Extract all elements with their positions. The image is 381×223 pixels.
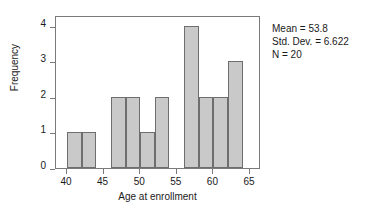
x-tick-mark — [176, 169, 177, 174]
x-tick-mark — [212, 169, 213, 174]
histogram-bar — [82, 132, 97, 168]
plot-frame — [55, 16, 260, 169]
y-tick-label: 4 — [40, 19, 46, 29]
y-tick-label: 2 — [40, 90, 46, 100]
y-tick-label: 0 — [40, 161, 46, 171]
histogram-figure: 01234 Frequency 404550556065 Age at enro… — [0, 0, 381, 223]
histogram-bar — [213, 97, 228, 168]
x-tick-mark — [66, 169, 67, 174]
histogram-bar — [199, 97, 214, 168]
x-tick-label: 45 — [87, 176, 119, 187]
plot-area — [56, 17, 259, 168]
stat-mean: Mean = 53.8 — [272, 22, 349, 35]
histogram-bar — [111, 97, 126, 168]
x-axis-title: Age at enrollment — [55, 191, 260, 202]
x-axis: 404550556065 — [55, 169, 260, 193]
histogram-bar — [126, 97, 141, 168]
x-tick-label: 40 — [50, 176, 82, 187]
histogram-bar — [184, 26, 199, 168]
x-tick-mark — [139, 169, 140, 174]
x-tick-label: 60 — [196, 176, 228, 187]
stat-stddev: Std. Dev. = 6.622 — [272, 35, 349, 48]
histogram-bar — [67, 132, 82, 168]
stat-n: N = 20 — [272, 48, 349, 61]
x-tick-mark — [103, 169, 104, 174]
stats-annotation: Mean = 53.8 Std. Dev. = 6.622 N = 20 — [272, 22, 349, 61]
y-tick-label: 3 — [40, 54, 46, 64]
x-tick-mark — [249, 169, 250, 174]
x-tick-label: 50 — [123, 176, 155, 187]
histogram-bar — [228, 61, 243, 168]
x-tick-label: 55 — [160, 176, 192, 187]
x-tick-label: 65 — [233, 176, 265, 187]
histogram-bar — [155, 97, 170, 168]
y-tick-label: 1 — [40, 125, 46, 135]
histogram-bar — [140, 132, 155, 168]
y-axis-title: Frequency — [9, 18, 20, 118]
